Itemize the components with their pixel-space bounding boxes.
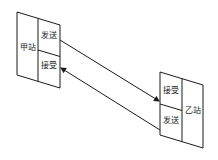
station-b-receive-cell: 接受 — [163, 85, 179, 95]
station-b-cell-divider — [160, 104, 182, 111]
communication-diagram: 甲站 发送 接受 接受 发送 乙站 — [0, 0, 218, 160]
station-a-receive-cell: 接受 — [41, 60, 57, 70]
station-a-label: 甲站 — [20, 42, 36, 52]
link-b-to-a-arrow — [61, 68, 160, 130]
station-b: 接受 发送 乙站 — [160, 72, 203, 148]
link-a-to-b-arrow — [60, 40, 159, 101]
station-a-send-cell: 发送 — [41, 30, 57, 40]
station-b-label: 乙站 — [185, 105, 201, 115]
station-a: 甲站 发送 接受 — [17, 12, 60, 88]
station-b-send-cell: 发送 — [163, 115, 179, 125]
station-a-cell-divider — [38, 50, 60, 57]
